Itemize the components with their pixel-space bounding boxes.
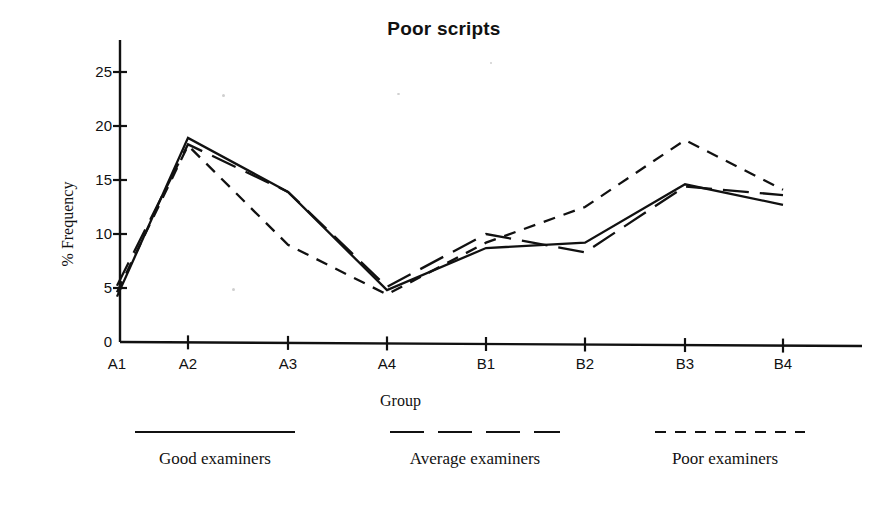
series-good-examiners [117,138,783,297]
chart-legend: Good examiners Average examiners Poor ex… [0,425,888,495]
legend-label-good: Good examiners [105,449,325,469]
axes [120,40,862,346]
series-line-long-dash [117,144,783,287]
series-line-short-dash [117,140,783,294]
legend-label-average: Average examiners [355,449,595,469]
legend-swatch-short-dash [610,425,840,439]
legend-swatch-solid [105,425,325,439]
series-line-solid [117,138,783,297]
legend-swatch-long-dash [355,425,595,439]
scan-speck [232,288,235,291]
series-average-examiners [117,144,783,287]
scan-speck [397,93,400,95]
legend-label-poor: Poor examiners [610,449,840,469]
scan-speck [490,62,492,64]
legend-entry-average: Average examiners [355,425,595,469]
series-poor-examiners [117,140,783,294]
chart-figure: Poor scripts % Frequency Group 25 20 15 … [0,0,888,505]
legend-entry-good: Good examiners [105,425,325,469]
scan-speck [222,94,225,97]
legend-entry-poor: Poor examiners [610,425,840,469]
x-axis-line [120,342,862,346]
